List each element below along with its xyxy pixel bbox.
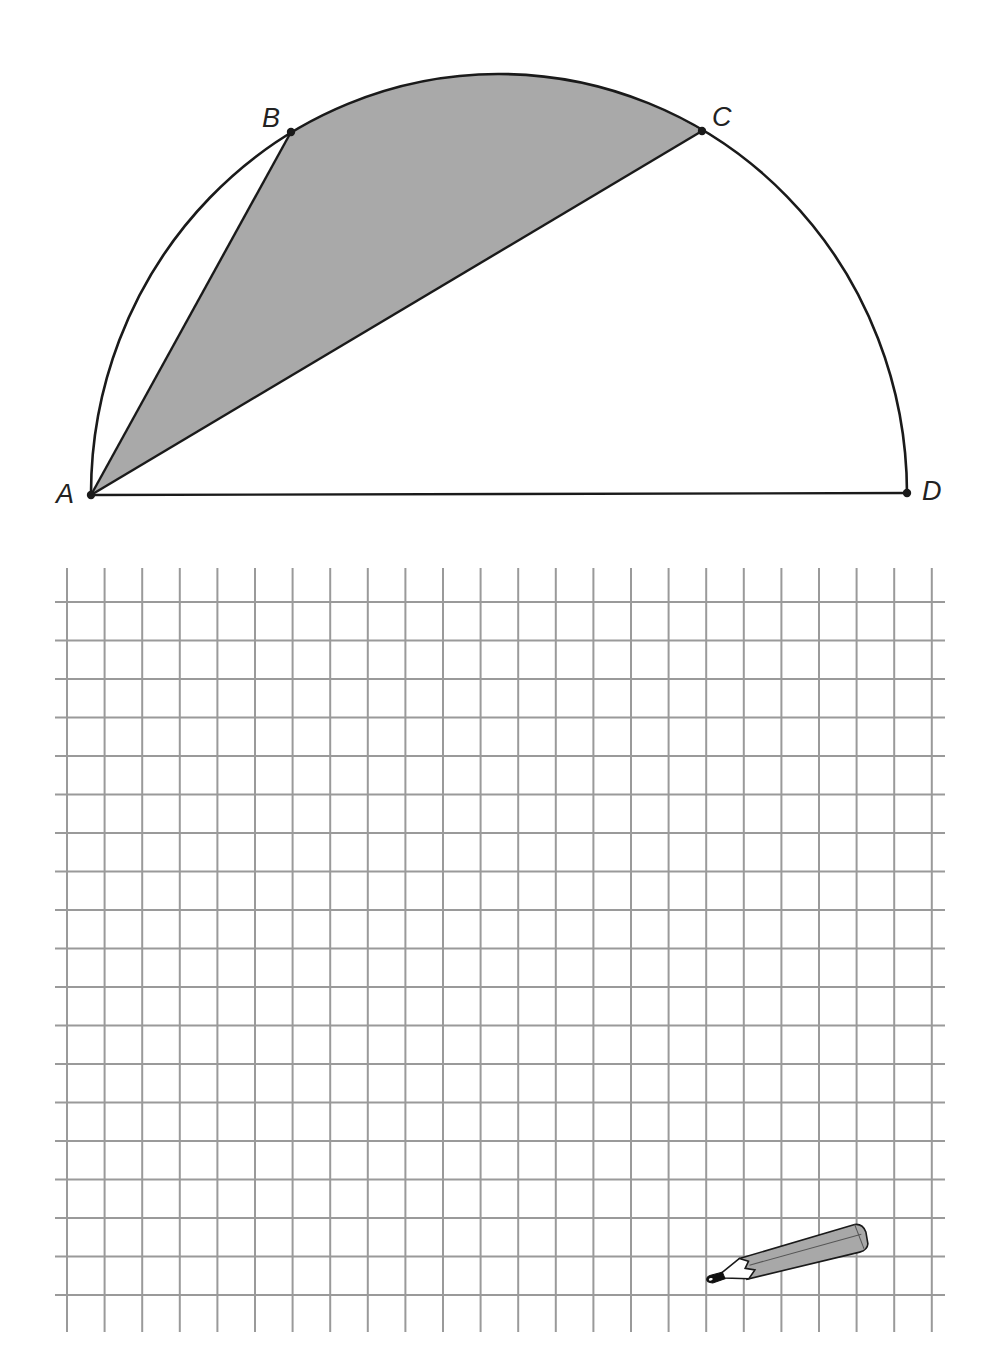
geometry-figure: ABCD	[54, 74, 942, 509]
label-B: B	[262, 103, 280, 133]
point-B	[287, 128, 295, 136]
point-D	[903, 489, 911, 497]
label-D: D	[922, 476, 942, 506]
figure-canvas: ABCD	[0, 0, 994, 1371]
point-A	[87, 491, 95, 499]
label-A: A	[54, 479, 74, 509]
grid-paper	[55, 568, 945, 1332]
point-C	[698, 127, 706, 135]
label-C: C	[712, 102, 732, 132]
segment-AD	[91, 493, 907, 495]
shaded-region	[91, 74, 702, 495]
